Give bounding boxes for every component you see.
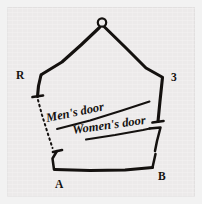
vertex-label-A: A: [55, 178, 64, 190]
wall-apex-to-R: [42, 28, 100, 75]
jamb-A-left: [53, 151, 58, 170]
wall-R-stub: [38, 75, 42, 97]
vertex-label-B: B: [158, 170, 166, 182]
tick-A-jamb-top: [53, 150, 62, 152]
wall-A-to-B: [55, 168, 153, 171]
jamb-womens-door-right: [150, 128, 161, 152]
vertex-label-3: 3: [171, 71, 177, 83]
wall-apex-to-3: [105, 27, 163, 77]
apex-node-circle: [98, 18, 106, 26]
vertex-label-R: R: [16, 69, 25, 81]
wall-B-return: [153, 154, 156, 168]
sketch-page: R 3 A B Men's door Women's door: [0, 0, 202, 204]
pentagon-plan-figure: R 3 A B Men's door Women's door: [0, 0, 202, 204]
tick-3-wall-end: [153, 121, 164, 123]
tick-R-stub-end: [33, 96, 44, 98]
wall-3-descending: [158, 78, 163, 122]
